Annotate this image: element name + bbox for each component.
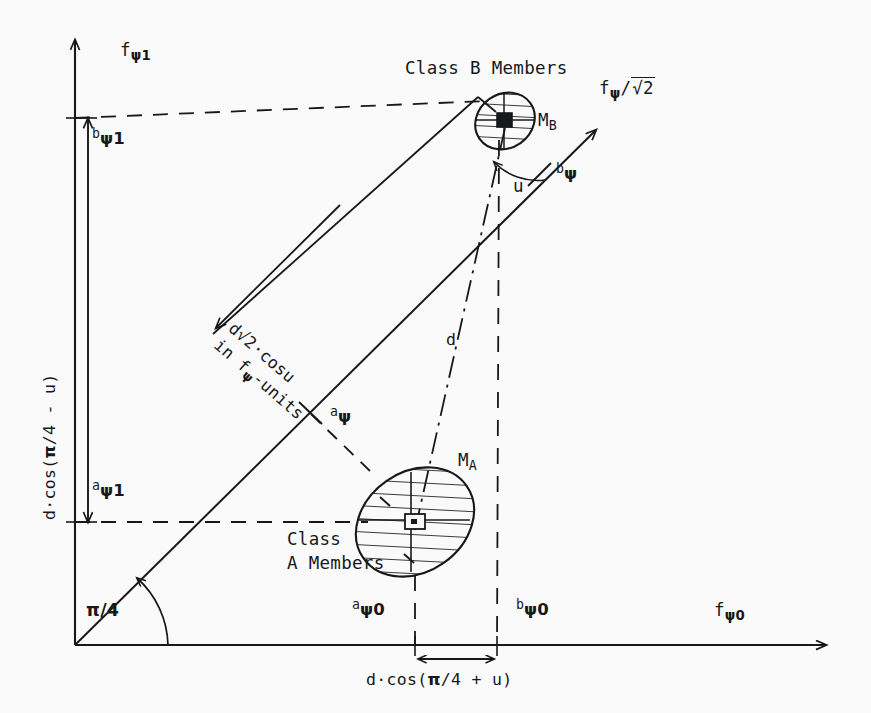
mean-a-label: MA [458, 450, 477, 474]
class-b-cluster-ellipse [464, 81, 546, 161]
diagonal-axis-label: fψ/√2 [599, 78, 655, 102]
x-axis-label: fψ0 [714, 600, 745, 624]
angle-pi-over-4-arc [137, 578, 168, 645]
b-psi0-label: bψ0 [516, 597, 549, 620]
mean-b-label: MB [538, 110, 557, 134]
diagonal-measure-arrow [213, 205, 340, 334]
b-psi0-dashed-vertical [497, 140, 499, 645]
y-axis-label: fψ1 [120, 40, 151, 64]
angle-pi-over-4-label: π/4 [86, 600, 119, 621]
b-psi-tick [528, 163, 551, 186]
class-a-mean-dot [411, 519, 417, 524]
vertical-measure-bracket [66, 118, 97, 522]
class-a-label-line2: A Members [287, 552, 385, 576]
class-a-label: Class A Members [287, 528, 385, 575]
class-b-label: Class B Members [405, 58, 568, 79]
class-a-label-line1: Class [287, 528, 385, 552]
horizontal-measure-bracket [415, 636, 497, 659]
angle-u-label: u [513, 176, 524, 197]
a-psi-label: aψ [330, 404, 351, 427]
horizontal-measure-label: d·cos(π/4 + u) [366, 670, 512, 689]
b-psi1-label: bψ1 [92, 126, 125, 149]
a-psi1-label: aψ1 [92, 478, 125, 501]
distance-d-label: d [446, 330, 456, 349]
a-psi0-label: aψ0 [352, 597, 385, 620]
diagram-canvas: fψ1 fψ0 fψ/√2 π/4 bψ1 aψ1 d·cos(π/4 - u)… [0, 0, 871, 713]
class-b-upper-diagonal [213, 97, 496, 334]
b-psi-label: bψ [556, 161, 577, 184]
class-b-mean-marker [497, 113, 512, 127]
vertical-measure-label: d·cos(π/4 - u) [40, 374, 59, 520]
class-b-projection-line [75, 101, 487, 118]
